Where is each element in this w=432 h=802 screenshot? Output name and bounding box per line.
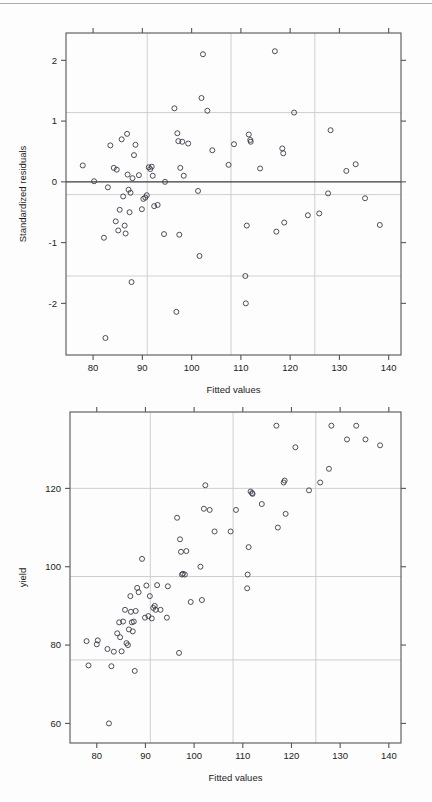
data-point [162,232,167,237]
data-point [245,586,250,591]
data-point [184,549,189,554]
data-point [328,128,333,133]
data-point [127,210,132,215]
residuals-gridlines [66,33,401,355]
data-point [326,466,331,471]
data-point [165,584,170,589]
data-point [329,423,334,428]
data-point [133,142,138,147]
y-tick-label: 100 [45,561,61,572]
data-point [139,207,144,212]
x-tick-label: 100 [184,362,200,373]
yield-tick-marks [65,407,406,748]
data-point [199,598,204,603]
data-point [164,615,169,620]
plot-frame-box [70,412,401,743]
x-tick-label: 80 [88,362,99,373]
data-point [228,529,233,534]
data-point [378,443,383,448]
x-tick-label: 110 [235,750,250,761]
data-point [354,423,359,428]
y-tick-label: 1 [52,115,57,126]
data-point [258,166,263,171]
data-point [123,231,128,236]
data-point [243,301,248,306]
data-point [177,650,182,655]
data-point [201,506,206,511]
data-point [129,280,134,285]
data-point [305,213,310,218]
x-tick-label: 120 [284,750,300,761]
y-tick-label: 80 [50,639,61,650]
data-point [106,721,111,726]
data-point [105,646,110,651]
data-point [246,132,251,137]
plot-frame-box [66,33,401,355]
data-point [155,583,160,588]
data-point [196,188,201,193]
yield-y-axis-title: yield [17,568,28,588]
residuals-scatterplot: 8090100110120130140 -2-1012 Fitted value… [0,0,432,400]
x-tick-label: 140 [381,362,397,373]
data-point [128,609,133,614]
yield-y-tick-labels: 6080100120 [45,483,61,729]
y-tick-label: 2 [52,55,57,66]
data-point [116,228,121,233]
data-point [280,146,285,151]
y-tick-label: 60 [50,718,61,729]
data-point [293,445,298,450]
data-point [125,131,130,136]
residuals-x-axis-title: Fitted values [207,384,261,395]
data-point [177,232,182,237]
data-point [117,207,122,212]
data-point [111,649,116,654]
yield-plot-frame [70,412,401,743]
data-point [84,639,89,644]
data-point [259,502,264,507]
data-point [344,437,349,442]
data-point [283,511,288,516]
data-point [317,211,322,216]
x-tick-label: 140 [381,750,397,761]
page-root: 8090100110120130140 -2-1012 Fitted value… [0,0,432,802]
yield-scatterplot: 8090100110120130140 6080100120 Fitted va… [0,400,432,802]
data-point [118,635,123,640]
y-tick-label: -1 [49,237,57,248]
data-point [175,131,180,136]
data-point [130,176,135,181]
data-point [344,168,349,173]
data-point [272,49,277,54]
data-point [198,564,203,569]
x-tick-label: 80 [91,750,102,761]
data-point [246,545,251,550]
data-point [197,253,202,258]
yield-gridlines [70,412,401,743]
x-tick-label: 110 [233,362,248,373]
data-point [274,229,279,234]
data-point [125,172,130,177]
data-point [353,162,358,167]
figure-yield: 8090100110120130140 6080100120 Fitted va… [0,400,432,802]
data-point [233,507,238,512]
data-point [119,137,124,142]
data-point [210,148,215,153]
data-point [119,649,124,654]
data-point [377,222,382,227]
data-point [203,483,208,488]
data-point [188,599,193,604]
x-tick-label: 120 [282,362,298,373]
data-point [186,141,191,146]
data-point [178,549,183,554]
data-point [172,106,177,111]
residuals-y-axis-title: Standardized residuals [17,145,28,242]
data-point [132,668,137,673]
figure-residuals: 8090100110120130140 -2-1012 Fitted value… [0,0,432,400]
data-point [144,583,149,588]
data-point [123,607,128,612]
data-point [207,507,212,512]
data-point [140,556,145,561]
data-point [363,196,368,201]
data-point [109,664,114,669]
data-point [147,594,152,599]
yield-x-axis-title: Fitted values [209,772,263,783]
